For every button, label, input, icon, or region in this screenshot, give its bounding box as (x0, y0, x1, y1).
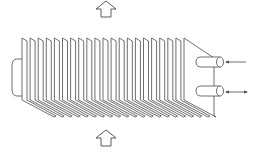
pipe-lower (196, 86, 224, 96)
pipe-upper (196, 57, 224, 67)
end-cap-icon (12, 59, 22, 96)
heat-exchanger-diagram: finned-tube heat exchanger schematic (0, 0, 254, 153)
double-arrow-icon (225, 91, 248, 94)
airflow-arrow-top-icon (96, 1, 116, 17)
fin-stack (22, 38, 210, 117)
inlet-arrow-icon (225, 61, 246, 64)
diagram-svg (0, 0, 254, 153)
airflow-arrow-bottom-icon (96, 130, 116, 146)
